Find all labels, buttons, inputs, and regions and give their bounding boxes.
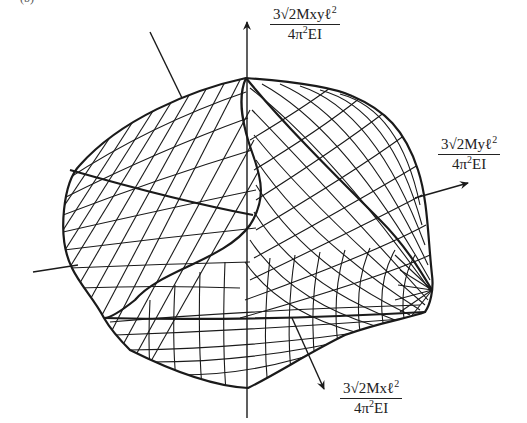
interaction-surface-figure: (b) xyxy=(0,0,527,423)
vertical-axis-label: 3√2Mxyℓ2 4π2EI xyxy=(270,6,340,43)
down-right-axis-label: 3√2Mxℓ2 4π2EI xyxy=(340,380,402,417)
right-axis-label: 3√2Myℓ2 4π2EI xyxy=(438,136,500,173)
figure-corner-label: (b) xyxy=(20,0,34,6)
right-lobe-hatch-a xyxy=(245,84,430,332)
interaction-surface-diagram xyxy=(0,0,527,423)
left-lobe-hatch-a xyxy=(60,80,258,370)
mesh-grid xyxy=(60,80,432,392)
upper-left-axis xyxy=(150,32,182,98)
s-curve xyxy=(104,78,261,318)
surface-outline xyxy=(63,78,432,388)
